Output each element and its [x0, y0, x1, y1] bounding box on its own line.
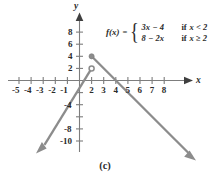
figure-caption: (c) — [0, 160, 210, 171]
x-tick-label-2: 2 — [89, 86, 94, 95]
y-tick-label--10: -10 — [60, 137, 72, 146]
x-tick-label-7: 7 — [150, 86, 155, 95]
x-tick-label-5: 5 — [126, 86, 131, 95]
x-tick-label--1: -1 — [60, 86, 68, 95]
y-tick-label-6: 6 — [68, 40, 73, 49]
left-brace-glyph: { — [130, 23, 139, 42]
formula-case2-if: if — [181, 33, 186, 44]
formula-equals: = — [123, 27, 128, 38]
x-axis-label: x — [196, 76, 201, 86]
y-tick-label-2: 2 — [68, 64, 73, 73]
y-axis-label: y — [74, 2, 78, 12]
x-tick-label--3: -3 — [36, 86, 44, 95]
y-tick-label--4: -4 — [64, 101, 72, 110]
x-tick-label-4: 4 — [113, 86, 118, 95]
x-axis-arrowhead — [184, 77, 193, 85]
formula-case-row-1: 3x − 4 if x < 2 — [141, 22, 207, 33]
formula-case2-expression: 8 − 2x — [141, 33, 178, 44]
branch-two-line — [92, 56, 189, 153]
x-tick-label--5: -5 — [12, 86, 20, 95]
y-tick-label-8: 8 — [68, 28, 73, 37]
y-tick-label--8: -8 — [64, 125, 72, 134]
formula-case-row-2: 8 − 2x if x ≥ 2 — [141, 33, 207, 44]
open-endpoint-circle — [89, 66, 94, 71]
x-tick-label--4: -4 — [24, 86, 32, 95]
closed-endpoint-dot — [89, 54, 94, 59]
y-tick-label-4: 4 — [68, 52, 73, 61]
x-tick-label--2: -2 — [48, 86, 56, 95]
formula-case1-if: if — [181, 22, 186, 33]
piecewise-formula: f(x) = { 3x − 4 if x < 2 8 − 2x if x ≥ 2 — [106, 22, 207, 43]
formula-case1-condition: x < 2 — [190, 22, 208, 33]
formula-case2-condition: x ≥ 2 — [190, 33, 207, 44]
x-tick-label-8: 8 — [162, 86, 167, 95]
formula-function-name: f(x) — [106, 27, 120, 38]
piecewise-function-figure: -5 -4 -3 -2 -1 2 3 4 5 6 7 8 8 6 4 2 -4 … — [0, 0, 210, 186]
x-tick-label-6: 6 — [138, 86, 143, 95]
formula-cases: 3x − 4 if x < 2 8 − 2x if x ≥ 2 — [141, 22, 207, 43]
formula-case1-expression: 3x − 4 — [141, 22, 178, 33]
y-axis-arrowhead — [76, 13, 84, 22]
x-tick-label-3: 3 — [101, 86, 106, 95]
